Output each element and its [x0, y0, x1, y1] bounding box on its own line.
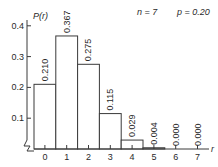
bar-r-3: [99, 114, 121, 149]
binomial-chart: 0.2100.3670.2750.1150.0290.0040.0000.000…: [0, 0, 218, 167]
y-tick-label: 0.2: [11, 82, 24, 92]
x-tick-label: 2: [86, 152, 91, 162]
y-tick-label: 0.1: [11, 113, 24, 123]
x-tick-label: 1: [64, 152, 69, 162]
value-label: 0.004: [149, 122, 159, 145]
x-tick-label: 0: [42, 152, 47, 162]
y-axis: 0.10.20.30.4: [11, 20, 34, 151]
bar-r-2: [78, 64, 100, 149]
x-tick-label: 3: [108, 152, 113, 162]
value-label: 0.115: [105, 89, 115, 111]
n-annotation: n = 7: [137, 7, 158, 17]
axis-break-icon: [24, 140, 34, 151]
value-label: 0.210: [40, 59, 50, 82]
x-tick-label: 7: [195, 152, 200, 162]
x-tick-label: 6: [173, 152, 178, 162]
value-label: 0.275: [84, 39, 94, 62]
y-axis-label: P(r): [33, 11, 48, 21]
x-tick-label: 4: [130, 152, 135, 162]
bars-group: [34, 36, 165, 149]
bar-r-1: [56, 36, 78, 149]
value-label: 0.029: [127, 115, 137, 138]
p-annotation: p = 0.20: [176, 7, 210, 17]
x-tick-label: 5: [151, 152, 156, 162]
y-tick-label: 0.3: [11, 52, 24, 62]
x-axis-label: r: [211, 144, 215, 154]
value-label: 0.000: [171, 123, 181, 146]
value-label: 0.367: [62, 10, 72, 33]
bar-r-0: [34, 84, 56, 149]
y-tick-label: 0.4: [11, 21, 24, 31]
value-label: 0.000: [193, 123, 203, 146]
